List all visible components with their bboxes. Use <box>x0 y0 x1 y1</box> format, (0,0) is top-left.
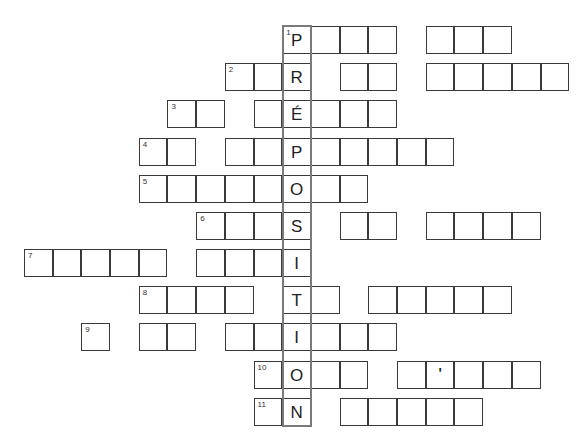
answer-cell[interactable] <box>254 249 283 277</box>
key-cell: S <box>282 212 311 240</box>
answer-cell[interactable] <box>167 175 196 203</box>
answer-cell[interactable] <box>340 361 369 389</box>
answer-cell[interactable] <box>397 286 426 314</box>
answer-cell[interactable] <box>225 286 254 314</box>
clue-number: 2 <box>229 65 233 74</box>
answer-cell[interactable] <box>483 286 512 314</box>
answer-cell[interactable] <box>254 175 283 203</box>
answer-cell[interactable] <box>311 175 340 203</box>
answer-cell[interactable] <box>340 323 369 351</box>
answer-cell[interactable]: 8 <box>139 286 168 314</box>
key-letter: O <box>283 366 310 386</box>
answer-cell[interactable] <box>254 212 283 240</box>
answer-cell[interactable] <box>139 249 168 277</box>
key-letter: É <box>283 105 310 125</box>
answer-cell[interactable] <box>483 63 512 91</box>
answer-cell[interactable] <box>254 323 283 351</box>
answer-cell[interactable] <box>225 323 254 351</box>
key-cell: N <box>282 398 311 426</box>
key-letter: N <box>283 403 310 423</box>
answer-cell[interactable] <box>225 138 254 166</box>
answer-cell[interactable] <box>340 138 369 166</box>
answer-cell[interactable] <box>454 26 483 54</box>
answer-cell[interactable] <box>397 398 426 426</box>
answer-cell[interactable] <box>368 286 397 314</box>
answer-cell[interactable]: 6 <box>196 212 225 240</box>
answer-cell[interactable] <box>139 323 168 351</box>
answer-cell[interactable] <box>426 212 455 240</box>
answer-cell[interactable] <box>368 138 397 166</box>
answer-cell[interactable] <box>368 63 397 91</box>
answer-cell[interactable] <box>225 249 254 277</box>
answer-cell[interactable] <box>254 100 283 128</box>
answer-cell[interactable] <box>368 212 397 240</box>
answer-cell[interactable] <box>225 175 254 203</box>
answer-cell[interactable] <box>167 286 196 314</box>
answer-cell[interactable] <box>254 63 283 91</box>
clue-number: 11 <box>258 400 266 409</box>
answer-cell[interactable] <box>340 398 369 426</box>
key-cell: I <box>282 249 311 277</box>
answer-cell[interactable] <box>110 249 139 277</box>
answer-cell[interactable] <box>454 398 483 426</box>
answer-cell[interactable] <box>397 361 426 389</box>
answer-cell[interactable] <box>196 100 225 128</box>
answer-cell[interactable] <box>368 323 397 351</box>
answer-cell[interactable] <box>541 63 570 91</box>
answer-cell[interactable] <box>368 100 397 128</box>
key-cell: O <box>282 361 311 389</box>
answer-cell[interactable] <box>483 26 512 54</box>
answer-cell[interactable] <box>311 26 340 54</box>
answer-cell[interactable] <box>368 26 397 54</box>
clue-number: 4 <box>143 140 147 149</box>
answer-cell[interactable]: 9 <box>81 323 110 351</box>
answer-cell[interactable] <box>340 26 369 54</box>
answer-cell[interactable] <box>512 212 541 240</box>
answer-cell[interactable]: 4 <box>139 138 168 166</box>
answer-cell[interactable] <box>311 361 340 389</box>
key-letter: O <box>283 180 310 200</box>
clue-number: 5 <box>143 177 147 186</box>
answer-cell[interactable]: 5 <box>139 175 168 203</box>
answer-cell[interactable] <box>340 63 369 91</box>
answer-cell[interactable] <box>454 286 483 314</box>
answer-cell[interactable] <box>167 138 196 166</box>
answer-cell[interactable] <box>254 138 283 166</box>
key-letter: P <box>283 31 310 51</box>
answer-cell[interactable] <box>426 286 455 314</box>
answer-cell[interactable]: 2 <box>225 63 254 91</box>
key-cell: P <box>282 138 311 166</box>
answer-cell[interactable] <box>53 249 82 277</box>
answer-cell[interactable] <box>196 249 225 277</box>
answer-cell[interactable] <box>225 212 254 240</box>
answer-cell[interactable] <box>512 361 541 389</box>
answer-cell[interactable] <box>340 100 369 128</box>
answer-cell[interactable] <box>311 286 340 314</box>
answer-cell[interactable] <box>368 398 397 426</box>
answer-cell[interactable]: ' <box>426 361 455 389</box>
answer-cell[interactable] <box>426 398 455 426</box>
answer-cell[interactable] <box>311 100 340 128</box>
answer-cell[interactable] <box>167 323 196 351</box>
answer-cell[interactable] <box>454 212 483 240</box>
answer-cell[interactable] <box>483 212 512 240</box>
answer-cell[interactable]: 11 <box>254 398 283 426</box>
answer-cell[interactable] <box>311 323 340 351</box>
answer-cell[interactable] <box>426 26 455 54</box>
answer-cell[interactable] <box>340 212 369 240</box>
answer-cell[interactable] <box>311 138 340 166</box>
answer-cell[interactable]: 3 <box>167 100 196 128</box>
answer-cell[interactable] <box>454 63 483 91</box>
answer-cell[interactable] <box>340 175 369 203</box>
answer-cell[interactable] <box>483 361 512 389</box>
answer-cell[interactable] <box>196 286 225 314</box>
answer-cell[interactable] <box>512 63 541 91</box>
answer-cell[interactable] <box>454 361 483 389</box>
answer-cell[interactable]: 7 <box>24 249 53 277</box>
answer-cell[interactable] <box>196 175 225 203</box>
answer-cell[interactable] <box>426 138 455 166</box>
answer-cell[interactable] <box>81 249 110 277</box>
answer-cell[interactable] <box>397 138 426 166</box>
answer-cell[interactable]: 10 <box>254 361 283 389</box>
answer-cell[interactable] <box>426 63 455 91</box>
